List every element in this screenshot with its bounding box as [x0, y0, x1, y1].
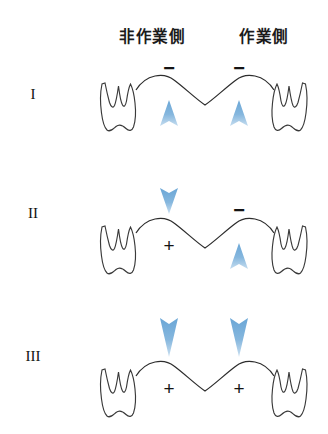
row-3-graphic [101, 318, 307, 417]
row-1-nonworking-arrow-up [160, 100, 178, 126]
row-1-graphic [101, 75, 307, 130]
row-2-arch [136, 218, 274, 248]
row-2-nonworking-arrow-down [160, 188, 178, 214]
row-3-nonworking-arrow-down [160, 318, 178, 357]
row-2-working-arrow-up [230, 243, 248, 269]
row-1-arch [136, 75, 274, 105]
row-2-nonworking-sign: + [158, 236, 180, 255]
row-3-nonworking-sign: + [158, 379, 180, 398]
row-3-arch [136, 361, 274, 391]
row-1-working-arrow-up [230, 100, 248, 126]
row-1-right-tooth [272, 83, 307, 131]
row-2-left-tooth [101, 226, 136, 274]
diagram-vector-layer [0, 0, 328, 434]
row-2-working-sign: − [228, 200, 250, 220]
row-3-left-tooth [101, 369, 136, 417]
dental-bridge-force-diagram: 非作業側 作業側 I II III − − [0, 0, 328, 434]
row-3-working-arrow-down [230, 318, 248, 357]
row-3-working-sign: + [228, 379, 250, 398]
row-2-graphic [101, 188, 307, 274]
row-1-left-tooth [101, 83, 136, 131]
row-3-right-tooth [272, 369, 307, 417]
row-2-right-tooth [272, 226, 307, 274]
